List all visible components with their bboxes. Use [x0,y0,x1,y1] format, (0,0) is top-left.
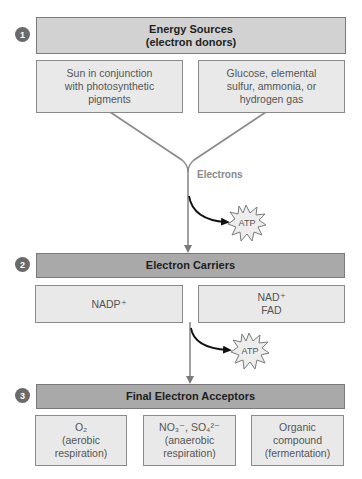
box-line: (aerobic [55,434,108,447]
box-line: Organic [265,421,330,434]
electrons-label: Electrons [197,169,243,180]
box-line: respiration) [55,447,108,460]
box-line: (fermentation) [265,447,330,460]
header-subtitle-line: (electron donors) [146,36,236,49]
box-line: NO₃⁻, SO₄²⁻ [159,421,220,434]
box-line: (anaerobic [159,434,220,447]
donor-line-left [110,112,188,172]
acceptor-box-organic: Organic compound (fermentation) [251,415,344,466]
box-line: Glucose, elemental [227,67,317,80]
step-badge-2: 2 [15,257,30,272]
step-badge-3: 3 [15,388,30,403]
box-line: NAD⁺ [257,291,285,304]
atp-arrow-1 [189,196,226,222]
acceptor-box-nitrate-sulfate: NO₃⁻, SO₄²⁻ (anaerobic respiration) [143,415,236,466]
box-line: O₂ [55,421,108,434]
box-line: compound [265,434,330,447]
header-title-line: Final Electron Acceptors [126,390,255,403]
donor-box-chemicals: Glucose, elemental sulfur, ammonia, or h… [198,60,345,113]
acceptor-box-oxygen: O₂ (aerobic respiration) [35,415,127,466]
energy-sources-header: Energy Sources (electron donors) [36,17,346,54]
step-badge-1: 1 [15,27,30,42]
electron-carriers-header: Electron Carriers [36,253,345,278]
carrier-box-nadp: NADP⁺ [35,285,183,323]
atp-burst-icon-1: ATP [228,205,266,241]
box-line: pigments [65,93,154,106]
donor-line-right [188,112,266,172]
atp-burst-icon-2: ATP [231,333,269,369]
box-line: NADP⁺ [91,298,126,311]
final-acceptors-header: Final Electron Acceptors [36,384,345,409]
box-line: respiration) [159,447,220,460]
box-line: with photosynthetic [65,80,154,93]
box-line: sulfur, ammonia, or [227,80,317,93]
box-line: FAD [257,304,285,317]
header-title-line: Electron Carriers [146,259,235,272]
box-line: hydrogen gas [227,93,317,106]
atp-arrow-2 [191,328,228,350]
box-line: Sun in conjunction [65,67,154,80]
svg-text:ATP: ATP [239,218,256,228]
header-title-line: Energy Sources [146,23,236,36]
donor-box-sun: Sun in conjunction with photosynthetic p… [36,60,183,113]
svg-text:ATP: ATP [242,346,259,356]
carrier-box-nad-fad: NAD⁺ FAD [198,285,345,323]
